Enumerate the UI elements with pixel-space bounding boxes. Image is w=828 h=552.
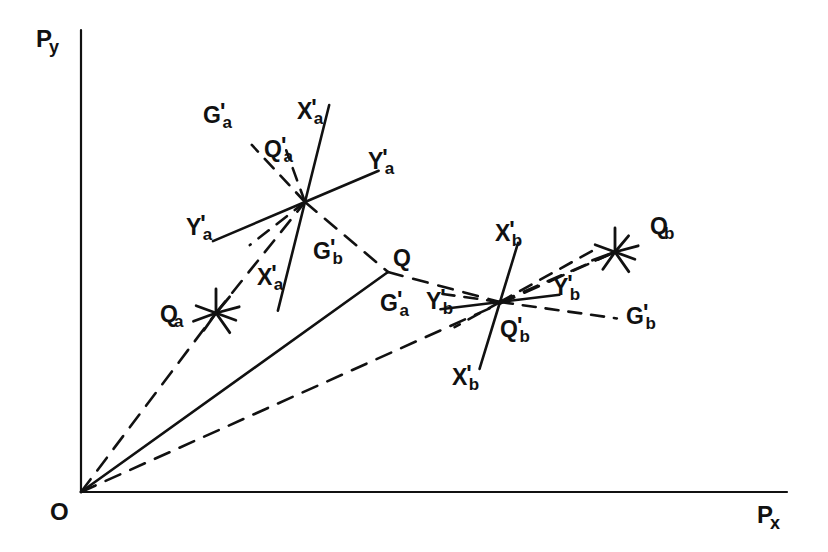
y-axis-label: Py	[36, 27, 62, 51]
figure-canvas: PyPxOQaQQbG'aX'aQ'aY'aY'aX'aG'bG'aX'bY'b…	[0, 0, 828, 552]
axis-label-cluster-a-Ya-4: Y'a	[186, 216, 216, 239]
cluster-a	[213, 105, 379, 311]
axis-label-cluster-b-Yb-4: Y'b	[553, 276, 584, 299]
ray-to-Qa	[81, 313, 216, 492]
point-marker-Qa	[193, 289, 239, 333]
asterisk-spoke	[196, 306, 216, 313]
point-label-Qa: Qa	[160, 303, 187, 326]
x-axis-label: Px	[757, 503, 783, 527]
axis-label-cluster-b-Xb-3: X'b	[452, 366, 483, 389]
axis-label-cluster-a-Xa-1: X'a	[297, 100, 327, 123]
origin-label: O	[50, 500, 69, 524]
diagram-svg	[0, 0, 828, 552]
cluster-b-Xb-pos	[500, 243, 518, 302]
axis-label-cluster-b-Yb-1: Y'b	[426, 290, 457, 313]
cluster-a-Xa-neg	[278, 202, 305, 311]
asterisk-spoke	[595, 245, 615, 252]
point-label-Q: Q	[393, 247, 411, 270]
cluster-a-Ya-neg	[213, 202, 305, 241]
axis-label-cluster-a-Gb-6: G'b	[313, 240, 347, 263]
axis-label-cluster-a-Ya-3: Y'a	[368, 150, 398, 173]
axis-label-cluster-a-Ga-0: G'a	[203, 104, 236, 127]
axis-label-cluster-a-Qa-2: Q'a	[264, 138, 297, 161]
axis-label-cluster-b-Xb-0: X'b	[495, 222, 526, 245]
point-marker-Qb	[592, 228, 638, 272]
axis-label-cluster-a-Ga-7: G'a	[380, 292, 413, 315]
cluster-b	[440, 243, 616, 369]
point-label-Qb: Qb	[650, 215, 678, 238]
axis-label-cluster-a-Xa-5: X'a	[257, 266, 287, 289]
axis-label-cluster-b-Qb-2: Q'b	[500, 318, 534, 341]
ray-to-Q	[81, 272, 388, 492]
cluster-a-Ya-pos	[305, 171, 379, 202]
axis-label-cluster-b-Gb-5: G'b	[626, 305, 660, 328]
axes-group	[81, 30, 787, 492]
